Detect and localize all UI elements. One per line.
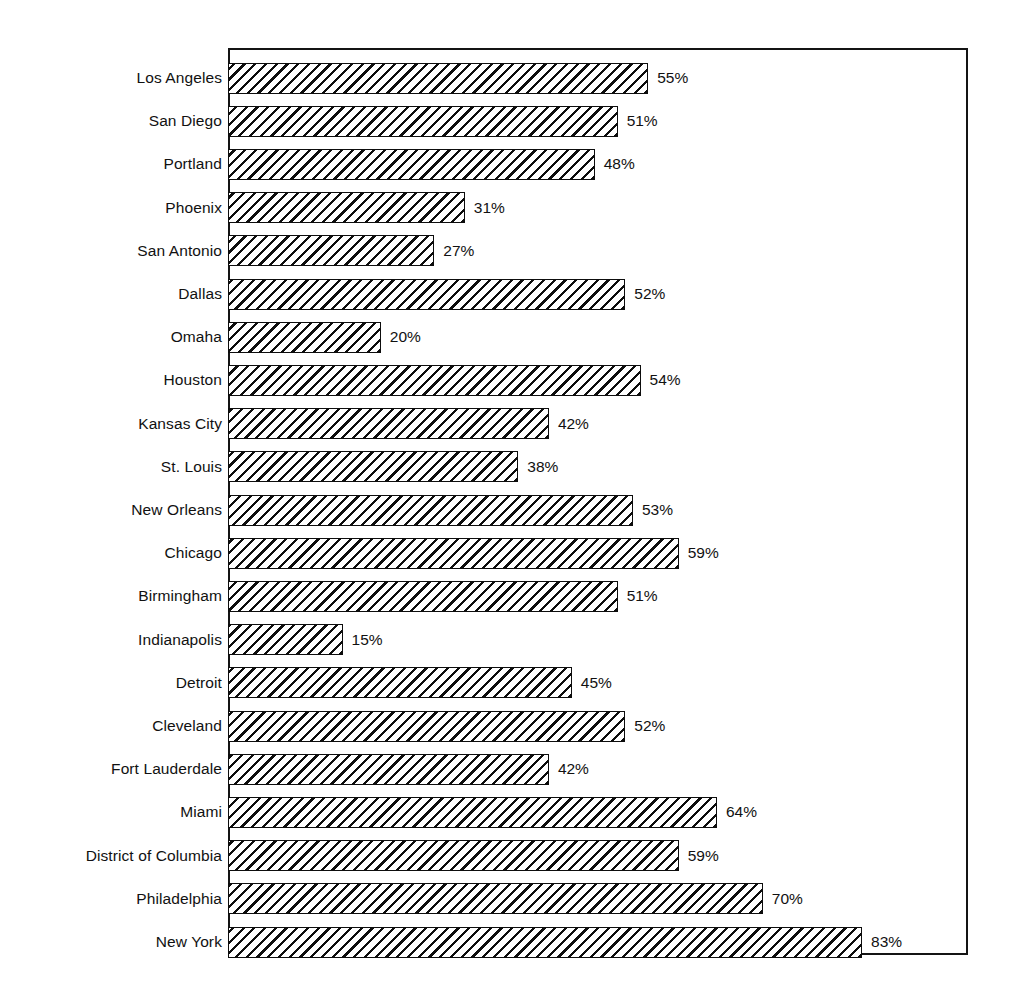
bar-and-value: 15% xyxy=(228,622,383,658)
bar xyxy=(228,711,625,742)
bar xyxy=(228,624,343,655)
bar-row: Fort Lauderdale42% xyxy=(0,751,1019,787)
bar-and-value: 31% xyxy=(228,190,505,226)
bar-row: Birmingham51% xyxy=(0,578,1019,614)
bar-value-label: 45% xyxy=(581,665,612,701)
bar-and-value: 83% xyxy=(228,924,902,960)
bar-value-label: 70% xyxy=(772,881,803,917)
bar xyxy=(228,322,381,353)
bar xyxy=(228,192,465,223)
bar-row: Chicago59% xyxy=(0,535,1019,571)
bar xyxy=(228,235,434,266)
category-label: San Antonio xyxy=(0,233,222,269)
bar-and-value: 42% xyxy=(228,751,589,787)
bar xyxy=(228,451,518,482)
bar-row: Phoenix31% xyxy=(0,190,1019,226)
bar-row: San Antonio27% xyxy=(0,233,1019,269)
category-label: Miami xyxy=(0,794,222,830)
bar-and-value: 64% xyxy=(228,794,757,830)
bar-value-label: 64% xyxy=(726,794,757,830)
bar-row: District of Columbia59% xyxy=(0,838,1019,874)
bar xyxy=(228,538,679,569)
bar xyxy=(228,581,618,612)
bar-and-value: 38% xyxy=(228,449,558,485)
bar-value-label: 52% xyxy=(634,708,665,744)
bar-and-value: 20% xyxy=(228,319,421,355)
category-label: Birmingham xyxy=(0,578,222,614)
bar xyxy=(228,840,679,871)
category-label: District of Columbia xyxy=(0,838,222,874)
bar-row: San Diego51% xyxy=(0,103,1019,139)
category-label: Omaha xyxy=(0,319,222,355)
category-label: Kansas City xyxy=(0,406,222,442)
bar-row: Dallas52% xyxy=(0,276,1019,312)
bar-and-value: 59% xyxy=(228,535,719,571)
bar-value-label: 38% xyxy=(527,449,558,485)
bar-value-label: 52% xyxy=(634,276,665,312)
bar xyxy=(228,149,595,180)
bar-and-value: 51% xyxy=(228,578,658,614)
bar-and-value: 52% xyxy=(228,276,665,312)
bar-value-label: 55% xyxy=(657,60,688,96)
bar-row: St. Louis38% xyxy=(0,449,1019,485)
category-label: San Diego xyxy=(0,103,222,139)
bar-row: Philadelphia70% xyxy=(0,881,1019,917)
bar-value-label: 20% xyxy=(390,319,421,355)
bar-and-value: 42% xyxy=(228,406,589,442)
bar-and-value: 48% xyxy=(228,146,635,182)
bar-row: Omaha20% xyxy=(0,319,1019,355)
bar-value-label: 42% xyxy=(558,406,589,442)
bar xyxy=(228,106,618,137)
bar-value-label: 53% xyxy=(642,492,673,528)
bar-row: Kansas City42% xyxy=(0,406,1019,442)
bar-value-label: 31% xyxy=(474,190,505,226)
bar xyxy=(228,365,641,396)
bar-and-value: 54% xyxy=(228,362,681,398)
bar-and-value: 70% xyxy=(228,881,803,917)
bar-row: Indianapolis15% xyxy=(0,622,1019,658)
category-label: Portland xyxy=(0,146,222,182)
bar-and-value: 59% xyxy=(228,838,719,874)
category-label: Dallas xyxy=(0,276,222,312)
bar xyxy=(228,883,763,914)
bar-value-label: 51% xyxy=(627,103,658,139)
bar-and-value: 55% xyxy=(228,60,688,96)
category-label: Houston xyxy=(0,362,222,398)
bar-chart: Los Angeles55%San Diego51%Portland48%Pho… xyxy=(0,0,1019,1004)
bar-and-value: 52% xyxy=(228,708,665,744)
category-label: St. Louis xyxy=(0,449,222,485)
bar xyxy=(228,495,633,526)
bar xyxy=(228,927,862,958)
category-label: New York xyxy=(0,924,222,960)
bar-row: New York83% xyxy=(0,924,1019,960)
bar-and-value: 45% xyxy=(228,665,612,701)
bar-row: Houston54% xyxy=(0,362,1019,398)
category-label: New Orleans xyxy=(0,492,222,528)
bar xyxy=(228,797,717,828)
bar xyxy=(228,667,572,698)
bar-row: Detroit45% xyxy=(0,665,1019,701)
bar-and-value: 51% xyxy=(228,103,658,139)
category-label: Los Angeles xyxy=(0,60,222,96)
bar xyxy=(228,279,625,310)
bar-value-label: 54% xyxy=(650,362,681,398)
category-label: Chicago xyxy=(0,535,222,571)
bar-row: Los Angeles55% xyxy=(0,60,1019,96)
bar-value-label: 59% xyxy=(688,535,719,571)
bar xyxy=(228,63,648,94)
bar-value-label: 42% xyxy=(558,751,589,787)
bar-value-label: 51% xyxy=(627,578,658,614)
bar-value-label: 83% xyxy=(871,924,902,960)
category-label: Indianapolis xyxy=(0,622,222,658)
bar-and-value: 53% xyxy=(228,492,673,528)
category-label: Philadelphia xyxy=(0,881,222,917)
category-label: Detroit xyxy=(0,665,222,701)
bar-row: Portland48% xyxy=(0,146,1019,182)
bar-value-label: 48% xyxy=(604,146,635,182)
bar-row: Miami64% xyxy=(0,794,1019,830)
bar-value-label: 15% xyxy=(352,622,383,658)
bar-rows-container: Los Angeles55%San Diego51%Portland48%Pho… xyxy=(0,48,1019,955)
bar xyxy=(228,754,549,785)
bar-value-label: 59% xyxy=(688,838,719,874)
bar-and-value: 27% xyxy=(228,233,474,269)
